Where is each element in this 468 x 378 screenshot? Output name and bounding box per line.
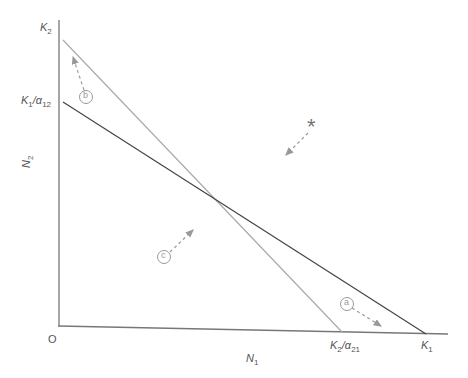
label-k1-over-alpha12: K1/α12 [21, 94, 51, 109]
arrow-c-icon [170, 230, 193, 252]
label-k1: K1 [421, 339, 433, 354]
x-axis [58, 326, 448, 334]
x-axis-label: N1 [246, 352, 258, 367]
region-c-label: c [161, 250, 166, 260]
species-2-isocline [63, 40, 342, 332]
phase-plane-diagram [0, 0, 468, 378]
region-a-label: a [344, 297, 349, 307]
arrow-b-icon [73, 57, 84, 90]
region-b-label: b [83, 90, 88, 100]
label-k2: K2 [40, 21, 52, 36]
label-k2-over-alpha21: K2/α21 [330, 339, 360, 354]
species-1-isocline [63, 102, 426, 334]
arrow-a-icon [352, 308, 381, 326]
origin-label: O [48, 333, 57, 345]
arrow-star-icon [286, 133, 308, 155]
y-axis-label: N2 [20, 156, 35, 168]
equilibrium-star-icon: * [307, 114, 316, 140]
